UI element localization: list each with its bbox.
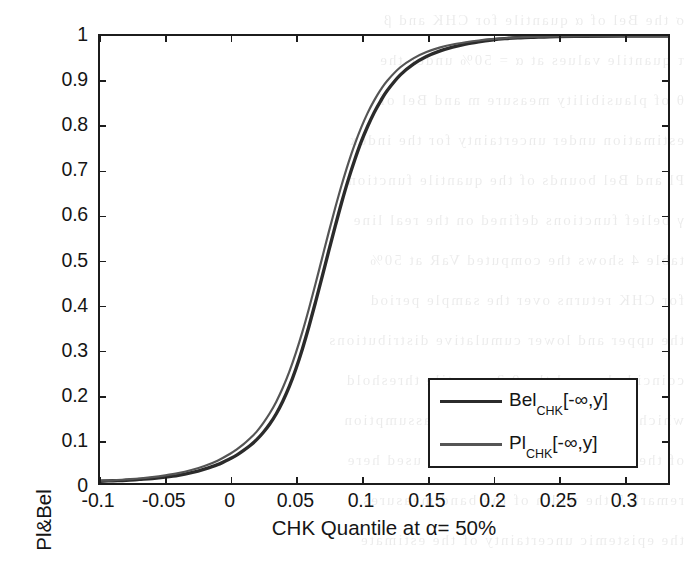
x-tick-label: -0.05 bbox=[142, 489, 185, 512]
x-tick-mark bbox=[165, 35, 167, 42]
y-tick-mark bbox=[662, 216, 669, 218]
y-tick-mark bbox=[662, 171, 669, 173]
x-tick-mark bbox=[231, 35, 233, 42]
y-tick-mark bbox=[662, 306, 669, 308]
x-tick-mark bbox=[296, 35, 298, 42]
x-tick-label: 0.25 bbox=[540, 489, 577, 512]
legend-label-pl: PlCHK[-∞,y] bbox=[509, 433, 598, 456]
legend-label-pl-bracket: [-∞,y] bbox=[552, 432, 597, 453]
legend-label-bel: BelCHK[-∞,y] bbox=[509, 390, 608, 413]
legend-item-pl: PlCHK[-∞,y] bbox=[430, 423, 636, 466]
x-tick-mark bbox=[362, 477, 364, 484]
legend-swatch-bel bbox=[440, 400, 502, 403]
y-tick-label: 0.8 bbox=[0, 113, 88, 136]
x-tick-mark bbox=[99, 477, 101, 484]
x-tick-mark bbox=[625, 477, 627, 484]
y-tick-mark bbox=[662, 441, 669, 443]
legend-label-bel-bracket: [-∞,y] bbox=[563, 389, 608, 410]
x-tick-mark bbox=[494, 477, 496, 484]
legend-swatch-pl bbox=[440, 443, 502, 445]
legend-label-bel-base: Bel bbox=[509, 389, 536, 410]
legend-label-pl-base: Pl bbox=[509, 432, 526, 453]
figure-canvas: Pl&Bel -0.1-0.0500.050.10.150.20.250.300… bbox=[0, 0, 698, 561]
x-tick-mark bbox=[428, 35, 430, 42]
y-tick-label: 0.4 bbox=[0, 293, 88, 316]
y-tick-mark bbox=[99, 306, 106, 308]
y-tick-mark bbox=[662, 80, 669, 82]
x-tick-mark bbox=[428, 477, 430, 484]
y-tick-mark bbox=[99, 396, 106, 398]
x-tick-mark bbox=[559, 477, 561, 484]
x-tick-label: 0 bbox=[224, 489, 235, 512]
y-tick-label: 1 bbox=[0, 23, 88, 46]
x-tick-mark bbox=[559, 35, 561, 42]
y-tick-mark bbox=[99, 441, 106, 443]
legend-box: BelCHK[-∞,y] PlCHK[-∞,y] bbox=[428, 378, 638, 468]
legend-item-bel: BelCHK[-∞,y] bbox=[430, 380, 636, 423]
legend-label-pl-sub: CHK bbox=[526, 447, 552, 461]
y-tick-mark bbox=[662, 125, 669, 127]
y-tick-mark bbox=[99, 125, 106, 127]
x-tick-mark bbox=[494, 35, 496, 42]
x-tick-mark bbox=[296, 477, 298, 484]
x-tick-label: 0.1 bbox=[348, 489, 375, 512]
y-tick-mark bbox=[662, 351, 669, 353]
y-tick-label: 0.5 bbox=[0, 248, 88, 271]
x-tick-label: 0.05 bbox=[277, 489, 314, 512]
y-tick-label: 0.3 bbox=[0, 338, 88, 361]
x-axis-title: CHK Quantile at α= 50% bbox=[98, 516, 670, 540]
y-tick-mark bbox=[99, 261, 106, 263]
y-tick-label: 0.9 bbox=[0, 68, 88, 91]
x-tick-label: 0.3 bbox=[611, 489, 638, 512]
legend-label-bel-sub: CHK bbox=[536, 404, 562, 418]
y-tick-label: 0.2 bbox=[0, 383, 88, 406]
y-tick-label: 0.1 bbox=[0, 428, 88, 451]
x-tick-label: 0.15 bbox=[408, 489, 445, 512]
x-tick-mark bbox=[625, 35, 627, 42]
x-tick-mark bbox=[165, 477, 167, 484]
y-tick-mark bbox=[662, 396, 669, 398]
y-tick-label: 0.6 bbox=[0, 203, 88, 226]
x-tick-mark bbox=[362, 35, 364, 42]
y-tick-mark bbox=[99, 216, 106, 218]
x-tick-mark bbox=[99, 35, 101, 42]
y-tick-label: 0.7 bbox=[0, 158, 88, 181]
y-tick-mark bbox=[99, 80, 106, 82]
y-tick-mark bbox=[99, 351, 106, 353]
y-tick-label: 0 bbox=[0, 474, 88, 497]
y-tick-mark bbox=[662, 261, 669, 263]
x-tick-label: 0.2 bbox=[479, 489, 506, 512]
y-tick-mark bbox=[99, 171, 106, 173]
x-tick-mark bbox=[231, 477, 233, 484]
